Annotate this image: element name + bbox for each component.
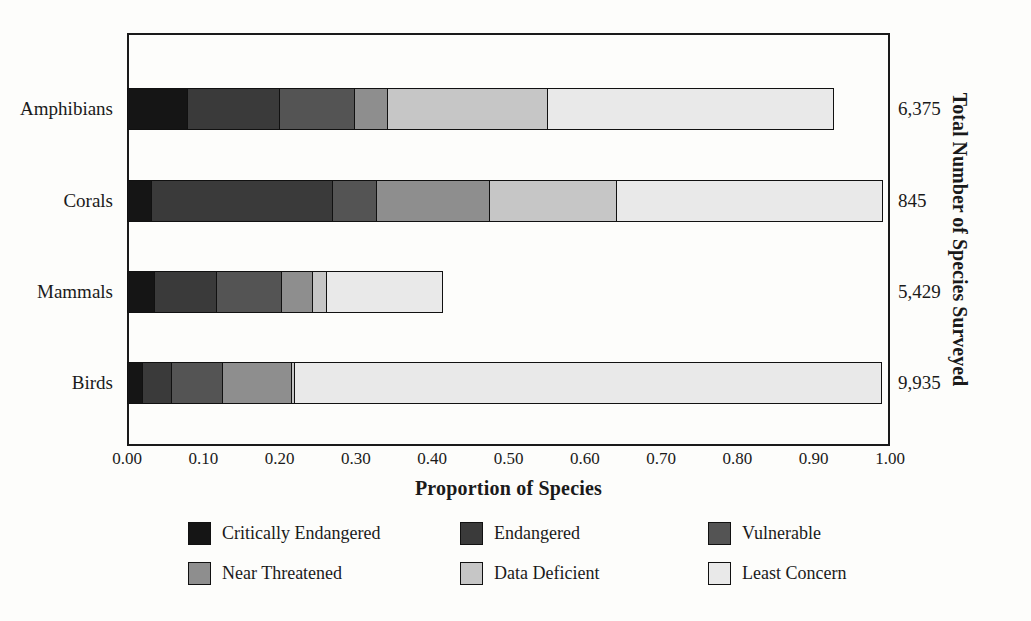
segment-vulnerable [171, 362, 224, 404]
bar-corals [127, 180, 883, 222]
category-label-text: Mammals [0, 271, 113, 313]
x-axis-ticks: 0.000.100.200.300.400.500.600.700.800.90… [127, 449, 890, 475]
segment-vulnerable [332, 180, 377, 222]
segment-endangered [187, 88, 281, 130]
segment-least-concern [547, 88, 834, 130]
segment-data-deficient [387, 88, 549, 130]
legend-swatch-icon [708, 522, 731, 545]
bar-amphibians [127, 88, 834, 130]
total-value-amphibians: 6,375 [898, 88, 941, 130]
segment-critically-endangered [127, 271, 155, 313]
total-value-text: 9,935 [898, 362, 941, 404]
category-label-text: Corals [0, 180, 113, 222]
x-tick-label: 0.30 [341, 449, 371, 469]
x-tick-label: 0.80 [723, 449, 753, 469]
segment-endangered [151, 180, 333, 222]
segment-critically-endangered [127, 180, 153, 222]
legend-item-vulnerable[interactable]: Vulnerable [708, 518, 821, 548]
total-value-mammals: 5,429 [898, 271, 941, 313]
segment-vulnerable [216, 271, 283, 313]
legend-item-critically-endangered[interactable]: Critically Endangered [188, 518, 380, 548]
segment-least-concern [294, 362, 882, 404]
legend-item-data-deficient[interactable]: Data Deficient [460, 558, 599, 588]
category-label-corals: Corals [0, 180, 127, 222]
category-label-mammals: Mammals [0, 271, 127, 313]
legend-item-least-concern[interactable]: Least Concern [708, 558, 846, 588]
x-tick-label: 0.50 [494, 449, 524, 469]
segment-least-concern [326, 271, 443, 313]
x-tick-label: 0.60 [570, 449, 600, 469]
segment-least-concern [616, 180, 883, 222]
x-axis-title: Proportion of Species [127, 477, 890, 500]
total-value-corals: 845 [898, 180, 927, 222]
x-tick-label: 0.40 [417, 449, 447, 469]
legend-swatch-icon [188, 562, 211, 585]
legend-label: Critically Endangered [222, 524, 380, 542]
segment-near-threatened [354, 88, 388, 130]
segment-vulnerable [279, 88, 355, 130]
legend-swatch-icon [460, 522, 483, 545]
total-value-text: 845 [898, 180, 927, 222]
segment-critically-endangered [127, 88, 188, 130]
legend-swatch-icon [460, 562, 483, 585]
category-label-text: Amphibians [0, 88, 113, 130]
segment-near-threatened [222, 362, 292, 404]
legend-item-endangered[interactable]: Endangered [460, 518, 580, 548]
legend-swatch-icon [188, 522, 211, 545]
total-value-birds: 9,935 [898, 362, 941, 404]
category-label-birds: Birds [0, 362, 127, 404]
figure-container: AmphibiansCoralsMammalsBirds 6,3758455,4… [0, 0, 1031, 621]
legend-swatch-icon [708, 562, 731, 585]
segment-critically-endangered [127, 362, 144, 404]
total-value-text: 5,429 [898, 271, 941, 313]
x-tick-label: 0.90 [799, 449, 829, 469]
y-axis-title: Total Number of Species Surveyed [945, 33, 975, 446]
total-value-text: 6,375 [898, 88, 941, 130]
segment-endangered [142, 362, 172, 404]
legend-item-near-threatened[interactable]: Near Threatened [188, 558, 342, 588]
x-tick-label: 0.00 [112, 449, 142, 469]
bar-mammals [127, 271, 443, 313]
segment-near-threatened [376, 180, 490, 222]
x-tick-label: 0.10 [188, 449, 218, 469]
x-tick-label: 1.00 [875, 449, 905, 469]
category-label-text: Birds [0, 362, 113, 404]
legend-label: Vulnerable [742, 524, 821, 542]
x-tick-label: 0.70 [646, 449, 676, 469]
segment-endangered [154, 271, 217, 313]
legend: Critically EndangeredEndangeredVulnerabl… [188, 518, 848, 596]
segment-data-deficient [489, 180, 618, 222]
category-label-amphibians: Amphibians [0, 88, 127, 130]
x-tick-label: 0.20 [265, 449, 295, 469]
legend-label: Near Threatened [222, 564, 342, 582]
legend-label: Endangered [494, 524, 580, 542]
legend-label: Data Deficient [494, 564, 599, 582]
legend-label: Least Concern [742, 564, 846, 582]
bar-birds [127, 362, 882, 404]
segment-near-threatened [281, 271, 314, 313]
